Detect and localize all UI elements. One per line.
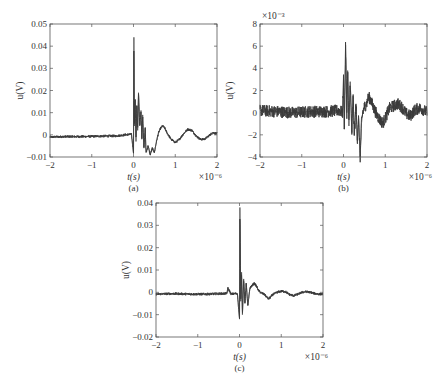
- x-tick-label: −1: [193, 340, 203, 350]
- x-tick-label: 0: [131, 160, 136, 170]
- subplot-c: −0.02−0.0100.010.020.030.04 −2−1012 u(V)…: [121, 198, 328, 373]
- y-tick-label: 0.03: [31, 63, 47, 73]
- y-tick-label: 6: [253, 41, 258, 51]
- figure: −0.0100.010.020.030.040.05 −2−1012 u(V) …: [0, 0, 442, 386]
- x-axis-multiplier: ×10⁻⁶: [199, 172, 222, 182]
- x-axis-multiplier: ×10⁻⁶: [305, 352, 328, 362]
- x-axis-ticks: −2−1012: [151, 203, 325, 350]
- y-tick-label: 0.05: [31, 19, 47, 29]
- subplot-label: (a): [129, 183, 139, 193]
- y-tick-label: 8: [253, 19, 258, 29]
- x-tick-label: −1: [297, 160, 307, 170]
- y-axis-ticks: −0.0100.010.020.030.040.05: [26, 19, 217, 162]
- y-tick-label: 0.01: [31, 108, 47, 118]
- x-tick-label: 1: [383, 160, 388, 170]
- x-tick-label: 2: [215, 160, 220, 170]
- y-axis-label: u(V): [225, 82, 236, 100]
- y-tick-label: 0: [43, 130, 48, 140]
- x-axis-label: t(s): [127, 172, 140, 183]
- x-tick-label: 0: [237, 340, 242, 350]
- y-tick-label: 0: [149, 287, 154, 297]
- subplot-label: (c): [235, 363, 245, 373]
- x-tick-label: 1: [173, 160, 178, 170]
- y-tick-label: 0: [253, 108, 258, 118]
- x-axis-ticks: −2−1012: [255, 24, 429, 170]
- x-tick-label: 2: [425, 160, 430, 170]
- x-tick-label: −2: [151, 340, 161, 350]
- y-tick-label: 0.04: [137, 198, 153, 208]
- y-axis-ticks: −0.02−0.0100.010.020.030.04: [132, 198, 323, 342]
- x-tick-label: −2: [45, 160, 55, 170]
- y-tick-label: −0.01: [26, 152, 47, 162]
- y-tick-label: 4: [253, 63, 258, 73]
- y-axis-label: u(V): [121, 261, 132, 279]
- y-tick-label: −2: [247, 130, 257, 140]
- x-tick-label: −2: [255, 160, 265, 170]
- y-tick-label: 0.03: [137, 220, 153, 230]
- x-tick-label: −1: [87, 160, 97, 170]
- signal-line: [260, 42, 427, 162]
- x-tick-label: 1: [279, 340, 284, 350]
- x-axis-label: t(s): [337, 172, 350, 183]
- y-tick-label: −0.01: [132, 310, 153, 320]
- y-tick-label: −0.02: [132, 332, 153, 342]
- y-tick-label: 0.02: [137, 243, 153, 253]
- y-axis-ticks: −4−202468: [247, 19, 427, 162]
- x-tick-label: 2: [321, 340, 326, 350]
- x-axis-multiplier: ×10⁻⁶: [409, 172, 432, 182]
- y-tick-label: 0.01: [137, 265, 153, 275]
- x-axis-label: t(s): [233, 352, 246, 363]
- subplot-label: (b): [338, 183, 349, 193]
- x-axis-ticks: −2−1012: [45, 24, 219, 170]
- y-axis-multiplier: ×10⁻³: [262, 11, 285, 21]
- y-tick-label: 0.04: [31, 41, 47, 51]
- subplot-b: −4−202468 −2−1012 u(V) t(s) ×10⁻⁶ ×10⁻³ …: [225, 11, 432, 193]
- subplot-a: −0.0100.010.020.030.040.05 −2−1012 u(V) …: [15, 19, 222, 193]
- y-tick-label: 2: [253, 86, 258, 96]
- x-tick-label: 0: [341, 160, 346, 170]
- y-tick-label: 0.02: [31, 86, 47, 96]
- y-axis-label: u(V): [15, 82, 26, 100]
